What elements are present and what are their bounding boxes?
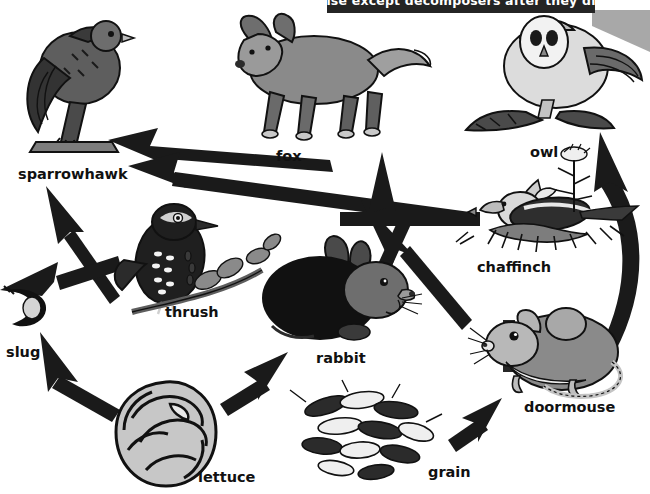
organism-doormouse (470, 300, 638, 406)
label-doormouse: doormouse (524, 399, 615, 415)
organism-rabbit (258, 232, 426, 348)
arrow-lettuce-to-rabbit (220, 352, 288, 416)
label-owl: owl (530, 144, 558, 160)
arrow-grain-to-doormouse (448, 398, 502, 452)
banner-caption-text: else except decomposers after they die (327, 0, 595, 8)
label-chaffinch: chaffinch (477, 259, 551, 275)
label-fox: fox (276, 148, 302, 164)
label-thrush: thrush (165, 304, 219, 320)
label-sparrowhawk: sparrowhawk (18, 166, 128, 182)
arrow-lettuce-to-slug (40, 332, 120, 422)
organism-grain (296, 388, 446, 488)
label-grain: grain (428, 464, 471, 480)
organism-sparrowhawk (14, 6, 142, 156)
food-web-diagram: else except decomposers after they die (0, 0, 650, 494)
label-lettuce: lettuce (198, 469, 255, 485)
label-slug: slug (6, 344, 40, 360)
organism-fox (218, 8, 438, 142)
banner-caption: else except decomposers after they die (327, 0, 595, 13)
organism-slug (2, 286, 54, 332)
arrow-rabbit-to-sparrowhawk (46, 186, 120, 304)
organism-chaffinch (450, 172, 640, 264)
organism-owl (456, 8, 644, 140)
label-rabbit: rabbit (316, 350, 366, 366)
